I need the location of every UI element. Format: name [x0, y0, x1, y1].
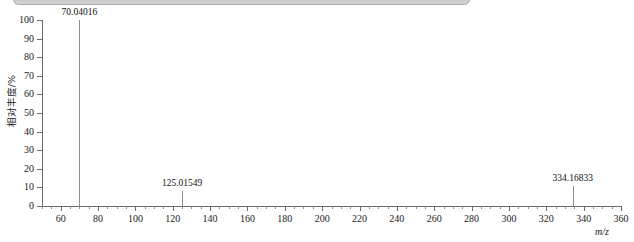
- x-tick-minor: [229, 206, 230, 209]
- x-axis-title: m/z: [582, 226, 622, 237]
- x-tick-minor: [313, 206, 314, 209]
- x-tick-minor: [369, 206, 370, 209]
- x-tick-minor: [378, 206, 379, 209]
- y-axis-line: [42, 20, 43, 207]
- x-tick-minor: [332, 206, 333, 209]
- x-tick-label: 220: [340, 213, 380, 224]
- x-tick-minor: [574, 206, 575, 209]
- x-tick-label: 160: [227, 213, 267, 224]
- x-tick-minor: [154, 206, 155, 209]
- y-tick-label: 0: [0, 201, 34, 211]
- x-tick-major: [247, 206, 248, 211]
- x-tick-minor: [444, 206, 445, 209]
- x-tick-major: [173, 206, 174, 211]
- x-tick-major: [135, 206, 136, 211]
- x-tick-major: [98, 206, 99, 211]
- x-tick-label: 120: [153, 213, 193, 224]
- x-tick-label: 100: [115, 213, 155, 224]
- y-tick-label: 10: [0, 182, 34, 192]
- x-tick-major: [546, 206, 547, 211]
- peak-label: 70.04016: [19, 7, 139, 17]
- x-tick-label: 320: [526, 213, 566, 224]
- x-tick-minor: [425, 206, 426, 209]
- x-tick-label: 280: [452, 213, 492, 224]
- mass-spectrum-chart: 0102030405060708090100 60801001201401601…: [0, 0, 634, 242]
- x-tick-minor: [42, 206, 43, 209]
- x-tick-minor: [481, 206, 482, 209]
- x-tick-label: 180: [265, 213, 305, 224]
- x-tick-minor: [257, 206, 258, 209]
- x-tick-minor: [266, 206, 267, 209]
- y-tick: [37, 150, 42, 151]
- x-tick-minor: [593, 206, 594, 209]
- x-tick-minor: [117, 206, 118, 209]
- x-tick-label: 260: [414, 213, 454, 224]
- x-tick-minor: [518, 206, 519, 209]
- x-tick-minor: [201, 206, 202, 209]
- x-tick-major: [322, 206, 323, 211]
- x-tick-major: [509, 206, 510, 211]
- x-tick-minor: [528, 206, 529, 209]
- y-tick: [37, 39, 42, 40]
- peak-bar: [573, 186, 574, 206]
- x-tick-minor: [70, 206, 71, 209]
- x-tick-minor: [238, 206, 239, 209]
- x-tick-label: 360: [601, 213, 634, 224]
- x-tick-minor: [350, 206, 351, 209]
- x-tick-minor: [303, 206, 304, 209]
- x-tick-minor: [107, 206, 108, 209]
- y-tick-label: 40: [0, 127, 34, 137]
- x-tick-major: [472, 206, 473, 211]
- x-tick-minor: [602, 206, 603, 209]
- x-tick-minor: [89, 206, 90, 209]
- x-tick-major: [210, 206, 211, 211]
- y-axis-title: 相对丰度/%: [7, 61, 17, 141]
- x-tick-minor: [406, 206, 407, 209]
- x-tick-minor: [79, 206, 80, 209]
- x-tick-minor: [556, 206, 557, 209]
- x-tick-minor: [294, 206, 295, 209]
- x-tick-label: 200: [302, 213, 342, 224]
- x-tick-label: 240: [377, 213, 417, 224]
- y-tick-label: 90: [0, 34, 34, 44]
- x-tick-major: [621, 206, 622, 211]
- peak-bar: [182, 191, 183, 206]
- x-tick-minor: [191, 206, 192, 209]
- peak-label: 125.01549: [122, 178, 242, 188]
- x-tick-minor: [163, 206, 164, 209]
- x-tick-minor: [537, 206, 538, 209]
- x-tick-minor: [490, 206, 491, 209]
- y-tick: [37, 94, 42, 95]
- x-tick-major: [397, 206, 398, 211]
- x-tick-minor: [416, 206, 417, 209]
- x-tick-major: [61, 206, 62, 211]
- y-tick: [37, 76, 42, 77]
- x-tick-minor: [388, 206, 389, 209]
- x-tick-label: 60: [41, 213, 81, 224]
- x-tick-minor: [341, 206, 342, 209]
- y-tick: [37, 113, 42, 114]
- x-tick-minor: [126, 206, 127, 209]
- x-tick-label: 80: [78, 213, 118, 224]
- y-tick: [37, 20, 42, 21]
- x-tick-label: 140: [190, 213, 230, 224]
- x-tick-label: 340: [564, 213, 604, 224]
- y-tick-label: 80: [0, 52, 34, 62]
- y-tick: [37, 187, 42, 188]
- x-tick-minor: [182, 206, 183, 209]
- x-tick-minor: [612, 206, 613, 209]
- x-tick-minor: [51, 206, 52, 209]
- x-tick-label: 300: [489, 213, 529, 224]
- x-tick-minor: [219, 206, 220, 209]
- x-tick-major: [285, 206, 286, 211]
- x-tick-minor: [145, 206, 146, 209]
- x-tick-minor: [462, 206, 463, 209]
- y-tick-label: 30: [0, 145, 34, 155]
- x-tick-minor: [453, 206, 454, 209]
- x-tick-major: [434, 206, 435, 211]
- x-tick-minor: [565, 206, 566, 209]
- x-tick-major: [584, 206, 585, 211]
- y-tick: [37, 132, 42, 133]
- peak-label: 334.16833: [513, 173, 633, 183]
- x-tick-minor: [500, 206, 501, 209]
